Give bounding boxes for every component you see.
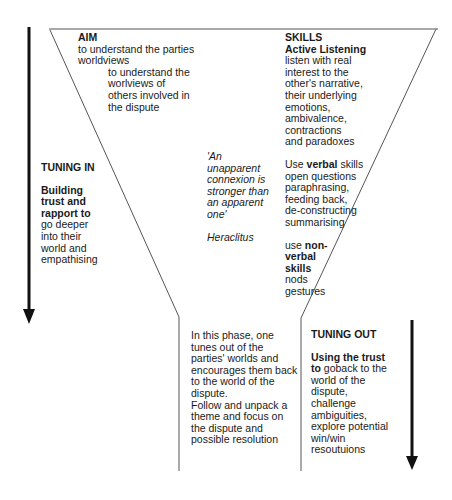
tuning-in-line: into their	[41, 231, 98, 243]
quote-block: 'An unapparent connexion is stronger tha…	[207, 151, 269, 243]
verbal-skills-line: Use verbal skills	[285, 159, 366, 171]
skills-line: and paradoxes	[285, 136, 366, 148]
tuning-out-line: explore potential	[311, 421, 388, 433]
phase-block: In this phase, one tunes out of the part…	[191, 330, 297, 446]
verbal-line: paraphrasing,	[285, 182, 366, 194]
skills-line: their underlying	[285, 90, 366, 102]
nonverbal-prefix: use	[285, 239, 305, 251]
skills-line: ambivalence,	[285, 113, 366, 125]
aim-heading: AIM	[78, 32, 194, 44]
skills-heading: SKILLS	[285, 32, 366, 44]
phase-line: possible resolution	[191, 434, 297, 446]
arrow-down-icon	[406, 456, 418, 470]
phase-line: In this phase, one	[191, 330, 297, 342]
tuning-in-heading: TUNING IN	[41, 162, 98, 174]
skills-block: SKILLS Active Listening listen with real…	[285, 32, 366, 297]
aim-block: AIM to understand the parties worldviews…	[78, 32, 194, 113]
tuning-in-arrow	[23, 27, 35, 324]
tuning-out-line: challenge	[311, 398, 388, 410]
phase-line: theme and focus on	[191, 411, 297, 423]
verbal-bold: verbal	[307, 158, 338, 170]
verbal-suffix: skills	[338, 158, 364, 170]
arrow-down-icon	[23, 309, 35, 324]
tuning-out-line: resoutuions	[311, 444, 388, 456]
tuning-in-block: TUNING IN Building trust and rapport to …	[41, 162, 98, 266]
tuning-out-block: TUNING OUT Using the trust to goback to …	[311, 329, 388, 456]
tuning-out-bold: to	[311, 362, 321, 374]
quote-line: 'An	[207, 151, 269, 163]
phase-line: dispute.	[191, 388, 297, 400]
nonverbal-bold: non-	[305, 239, 328, 251]
tuning-in-line: empathising	[41, 254, 98, 266]
verbal-prefix: Use	[285, 158, 307, 170]
quote-line: one'	[207, 209, 269, 221]
nonverbal-bold: verbal	[285, 251, 366, 263]
aim-sub: to understand the worlviews of others in…	[108, 67, 194, 113]
tuning-out-heading: TUNING OUT	[311, 329, 388, 341]
tuning-out-arrow	[406, 320, 418, 470]
aim-sub-line: others involved in	[108, 90, 194, 102]
nonverbal-line: gestures	[285, 286, 366, 298]
aim-sub-line: the dispute	[108, 102, 194, 114]
quote-author: Heraclitus	[207, 232, 269, 244]
verbal-line: summarising	[285, 217, 366, 229]
tuning-out-rest: goback to the	[321, 362, 387, 374]
